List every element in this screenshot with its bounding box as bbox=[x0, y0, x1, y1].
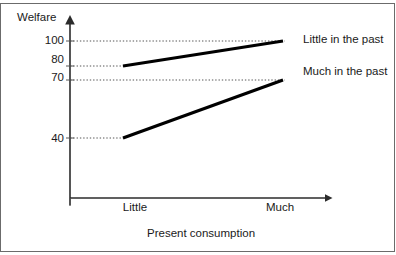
y-axis-title: Welfare bbox=[17, 12, 56, 24]
legend-label-much-in-the-past: Much in the past bbox=[303, 66, 387, 78]
x-tick-label-little: Little bbox=[105, 202, 165, 214]
y-tick-label-80: 80 bbox=[24, 54, 64, 66]
x-axis-title: Present consumption bbox=[147, 228, 255, 240]
series-line-much-in-the-past bbox=[123, 80, 283, 138]
legend-label-little-in-the-past: Little in the past bbox=[303, 34, 384, 46]
y-tick-label-40: 40 bbox=[24, 133, 64, 145]
chart-page: Welfare Present consumption 100 80 70 40… bbox=[0, 0, 396, 255]
y-tick-label-100: 100 bbox=[24, 35, 64, 47]
series-line-little-in-the-past bbox=[123, 41, 283, 66]
y-tick-label-70: 70 bbox=[24, 72, 64, 84]
x-tick-label-much: Much bbox=[250, 202, 310, 214]
